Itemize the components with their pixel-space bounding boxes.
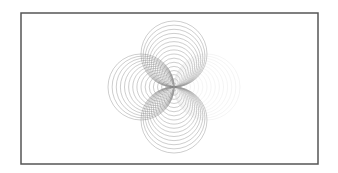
- ring: [151, 42, 196, 87]
- ring: [174, 68, 211, 105]
- circle-family-right: [174, 54, 240, 120]
- ring: [137, 68, 174, 105]
- ring: [155, 50, 192, 87]
- ring: [151, 87, 196, 132]
- tangent-circles-diagram: [0, 0, 338, 173]
- ring: [155, 87, 192, 124]
- ring: [129, 64, 174, 109]
- circle-family-top: [141, 21, 207, 87]
- circle-families: [108, 21, 240, 153]
- circle-family-bottom: [141, 87, 207, 153]
- circle-family-left: [108, 54, 174, 120]
- ring: [174, 64, 219, 109]
